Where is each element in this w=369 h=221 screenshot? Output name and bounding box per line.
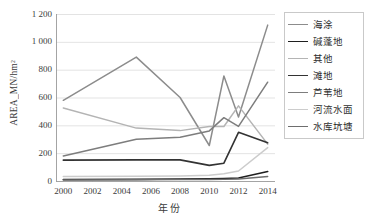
legend-item[interactable]: 其他 [288,50,360,67]
legend-line-swatch [288,58,308,59]
legend: 海涂碱蓬地其他滩地芦苇地河流水面水库坑塘 [284,12,364,139]
x-axis-tick-label: 2002 [78,187,108,196]
x-axis-tick-label: 2006 [136,187,166,196]
legend-line-swatch [288,92,308,93]
x-axis-tick-label: 2010 [194,187,224,196]
x-axis-tick-label: 2004 [107,187,137,196]
x-axis-tick-label: 2014 [253,187,283,196]
legend-item-label: 水库坑塘 [313,122,353,132]
legend-item-label: 滩地 [313,71,333,81]
series-line [63,148,267,177]
x-axis-tick-label: 2000 [48,187,78,196]
legend-item-label: 其他 [313,54,333,64]
legend-line-swatch [288,109,308,110]
legend-item[interactable]: 碱蓬地 [288,33,360,50]
legend-line-swatch [288,24,308,25]
chart-figure: AREA_MN/hm² 02004006008001 0001 200 2000… [0,0,369,221]
legend-item[interactable]: 海涂 [288,16,360,33]
legend-item[interactable]: 河流水面 [288,101,360,118]
gridlines [56,15,275,182]
legend-item[interactable]: 滩地 [288,67,360,84]
legend-item[interactable]: 芦苇地 [288,84,360,101]
legend-line-swatch [288,41,308,42]
x-axis-tick-label: 2012 [224,187,254,196]
x-axis-title: 年份 [55,200,285,215]
plot-area [56,14,275,181]
series-line [63,82,267,156]
legend-item[interactable]: 水库坑塘 [288,118,360,135]
legend-line-swatch [288,126,308,127]
plot-svg [56,14,275,182]
legend-item-label: 河流水面 [313,105,353,115]
legend-item-label: 芦苇地 [313,88,343,98]
legend-item-label: 海涂 [313,20,333,30]
legend-item-label: 碱蓬地 [313,37,343,47]
legend-line-swatch [288,75,308,76]
x-axis-tick-label: 2008 [165,187,195,196]
series-line [63,25,267,145]
